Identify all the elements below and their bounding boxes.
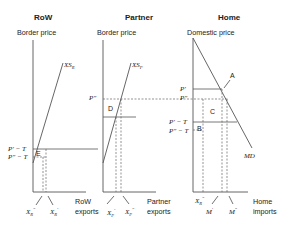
curve-label-home: MD bbox=[243, 152, 255, 160]
x-label-home-xr: XR" bbox=[194, 196, 205, 206]
trade-diversion-diagram: RoW Border price XSR P' − T P" − T E XR"… bbox=[0, 0, 286, 230]
region-label-b: B bbox=[197, 125, 202, 132]
x-label-home-m-prime: M' bbox=[205, 207, 214, 216]
price-label-row-2: P" − T bbox=[7, 153, 28, 161]
arrow-icon bbox=[123, 196, 129, 204]
panel-title-row: RoW bbox=[34, 13, 53, 22]
y-axis-label-row: Border price bbox=[17, 28, 56, 37]
x-axis-label-row-2: exports bbox=[75, 207, 99, 216]
supply-curve-row bbox=[33, 63, 63, 163]
region-label-e: E bbox=[36, 150, 41, 157]
x-label-row-xr-dprime: XR" bbox=[25, 207, 36, 217]
region-label-c: C bbox=[210, 108, 215, 115]
arrow-icon bbox=[36, 196, 42, 205]
price-label-partner: P" bbox=[88, 94, 96, 102]
demand-curve-home bbox=[193, 38, 252, 148]
arrow-icon bbox=[224, 80, 230, 88]
x-label-home-m-dprime: M" bbox=[228, 207, 238, 216]
x-label-partner-xp-prime: XP' bbox=[106, 208, 116, 218]
y-axis-label-home: Domestic price bbox=[187, 28, 235, 37]
curve-label-row: XSR bbox=[63, 61, 75, 70]
price-label-home-3: P' − T bbox=[168, 118, 188, 126]
point-label-a: A bbox=[230, 72, 235, 79]
x-axis-label-partner-2: exports bbox=[147, 207, 171, 216]
x-label-partner-xp-dprime: XP" bbox=[124, 207, 135, 217]
x-axis-label-partner-1: Partner bbox=[147, 197, 171, 206]
price-label-home-2: P" bbox=[179, 94, 187, 102]
arrow-icon bbox=[212, 196, 218, 204]
price-label-home-1: P' bbox=[179, 85, 186, 93]
x-label-row-xr-prime: XR' bbox=[49, 207, 59, 217]
region-label-d: D bbox=[108, 105, 113, 112]
y-axis-label-partner: Border price bbox=[97, 28, 136, 37]
supply-curve-partner bbox=[103, 63, 131, 163]
panel-title-partner: Partner bbox=[125, 13, 153, 22]
x-axis-label-home-2: imports bbox=[253, 207, 277, 216]
price-label-home-4: P" − T bbox=[168, 127, 189, 135]
panel-row: RoW Border price XSR P' − T P" − T E XR"… bbox=[7, 13, 99, 217]
panel-partner: Partner Border price XSP P" D XP' XP" Pa… bbox=[88, 13, 229, 218]
arrow-icon bbox=[48, 196, 53, 205]
panel-title-home: Home bbox=[218, 13, 241, 22]
arrow-icon bbox=[107, 196, 114, 204]
arrow-icon bbox=[229, 196, 233, 204]
x-axis-label-row-1: RoW bbox=[75, 197, 91, 206]
panel-home: Home Domestic price MD P' P" P' − T P" −… bbox=[168, 13, 277, 216]
curve-label-partner: XSP bbox=[131, 61, 143, 70]
x-axis-label-home-1: Home bbox=[253, 197, 272, 206]
price-label-row-1: P' − T bbox=[7, 145, 27, 153]
